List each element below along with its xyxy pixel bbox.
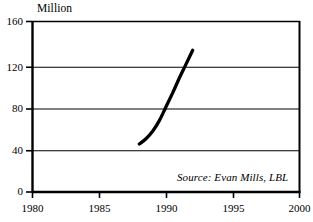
y-tick-label-120: 120 <box>0 62 23 73</box>
y-tick-label-0: 0 <box>0 186 23 197</box>
y-tick-label-40: 40 <box>0 145 23 156</box>
y-tick-marks <box>26 22 32 193</box>
x-tick-label-1980: 1980 <box>10 203 55 214</box>
x-tick-label-2000: 2000 <box>277 203 313 214</box>
x-tick-label-1985: 1985 <box>77 203 122 214</box>
chart-figure: Million 160 120 80 40 0 1980 1985 1990 1… <box>0 0 313 222</box>
y-tick-label-160: 160 <box>0 16 23 27</box>
y-tick-label-80: 80 <box>0 103 23 114</box>
y-axis-label: Million <box>37 3 72 15</box>
x-tick-label-1990: 1990 <box>144 203 189 214</box>
chart-plot-area <box>0 0 313 222</box>
source-annotation: Source: Evan Mills, LBL <box>177 172 288 183</box>
x-tick-label-1995: 1995 <box>211 203 256 214</box>
